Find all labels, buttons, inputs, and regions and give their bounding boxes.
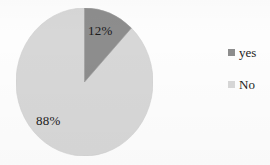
pie-chart-figure: 12% 88% yes No [0,0,270,165]
legend-item-yes[interactable]: yes [228,44,270,60]
legend-swatch-yes-icon [228,49,235,56]
chart-legend: yes No [228,44,270,108]
pie-label-yes: 12% [88,23,112,39]
legend-item-no[interactable]: No [228,76,270,92]
legend-swatch-no-icon [228,81,235,88]
pie-label-no: 88% [36,113,60,129]
pie-chart-svg [16,8,153,156]
legend-label-no: No [239,78,255,91]
pie-chart-plot-area [16,8,153,156]
legend-label-yes: yes [239,46,256,59]
